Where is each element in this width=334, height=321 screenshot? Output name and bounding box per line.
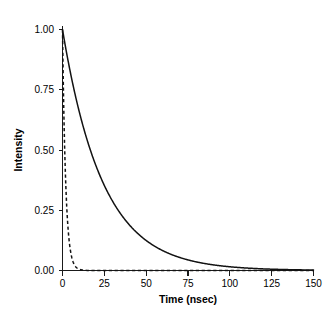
y-tick-label-3: 0.75 (35, 84, 55, 95)
x-axis-tick-labels: 0 25 50 75 100 125 150 (60, 278, 323, 289)
x-tick-label-1: 25 (99, 278, 111, 289)
y-tick-label-4: 1.00 (35, 24, 55, 35)
series-short-lifetime-decay (63, 30, 314, 271)
x-axis-title: Time (nsec) (159, 293, 217, 305)
x-tick-label-5: 125 (263, 278, 280, 289)
y-axis-tick-labels: 0.00 0.25 0.50 0.75 1.00 (35, 24, 55, 276)
y-axis-title: Intensity (12, 128, 24, 171)
y-tick-label-0: 0.00 (35, 265, 55, 276)
chart-figure: 0.00 0.25 0.50 0.75 1.00 0 25 50 75 100 … (0, 0, 334, 321)
x-tick-label-4: 100 (221, 278, 238, 289)
x-tick-label-0: 0 (60, 278, 66, 289)
y-tick-label-2: 0.50 (35, 145, 55, 156)
series-long-lifetime-decay (63, 30, 314, 271)
x-tick-label-6: 150 (305, 278, 322, 289)
y-axis-ticks (59, 30, 63, 271)
decay-curve-chart: 0.00 0.25 0.50 0.75 1.00 0 25 50 75 100 … (0, 0, 334, 321)
x-tick-label-3: 75 (182, 278, 194, 289)
x-tick-label-2: 50 (141, 278, 153, 289)
y-tick-label-1: 0.25 (35, 205, 55, 216)
